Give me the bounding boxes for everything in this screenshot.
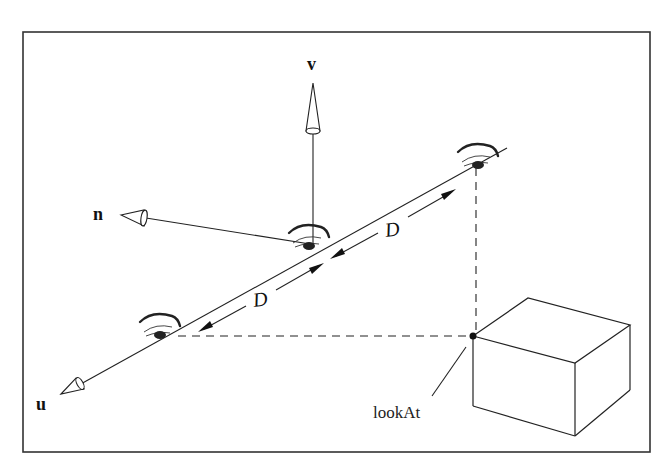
arrowhead-icon <box>441 189 456 200</box>
u-axis-arrow-icon <box>61 376 86 394</box>
distance-label-upper: D <box>383 217 402 241</box>
arrowhead-icon <box>309 263 324 274</box>
lookat-label: lookAt <box>373 403 421 422</box>
eye-icon <box>140 314 180 339</box>
v-axis-arrow-icon <box>306 83 320 134</box>
lookat-point <box>470 333 477 340</box>
arrowhead-icon <box>198 321 213 332</box>
n-axis-label: n <box>93 204 103 224</box>
n-axis-arrow-icon <box>121 210 148 227</box>
v-axis-label: v <box>307 54 316 74</box>
u-axis-label: u <box>36 394 46 414</box>
distance-label-lower: D <box>251 287 270 311</box>
camera-diagram: u v n D D <box>0 0 669 475</box>
u-axis-line <box>79 148 507 385</box>
arrowhead-icon <box>330 248 345 259</box>
cube <box>473 298 630 436</box>
lookat-leader-line <box>432 347 466 396</box>
n-axis-line <box>146 218 310 244</box>
eye-icon <box>289 225 329 250</box>
